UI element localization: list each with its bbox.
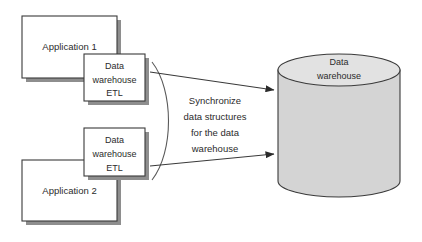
warehouse-cylinder-body[interactable]: [278, 70, 400, 197]
etl-box-2-line2: warehouse: [91, 149, 136, 159]
etl-box-2-line1: Data: [105, 135, 124, 145]
etl-group-brace-arc: [152, 62, 169, 180]
etl-box-2-node[interactable]: Data warehouse ETL: [84, 128, 149, 180]
etl-box-1-line2: warehouse: [91, 75, 136, 85]
application-2-label: Application 2: [42, 185, 96, 196]
connector-etl-1-to-warehouse: [150, 72, 274, 90]
caption-line-2: data structures: [184, 111, 247, 122]
etl-box-1-line3: ETL: [106, 88, 123, 98]
caption-line-1: Synchronize: [189, 95, 241, 106]
warehouse-cylinder-line2: warehouse: [316, 71, 361, 81]
warehouse-cylinder-node[interactable]: Data warehouse: [278, 54, 400, 197]
etl-box-2-line3: ETL: [106, 163, 123, 173]
application-1-label: Application 1: [42, 41, 96, 52]
connector-etl-2-to-warehouse: [150, 154, 274, 166]
caption-line-3: for the data: [191, 127, 240, 138]
etl-box-1-node[interactable]: Data warehouse ETL: [84, 54, 149, 105]
warehouse-cylinder-line1: Data: [329, 57, 348, 67]
diagram-svg: Application 1 Application 2 Data warehou…: [0, 0, 422, 242]
etl-box-1-line1: Data: [105, 61, 124, 71]
caption-block: Synchronize data structures for the data…: [184, 95, 247, 154]
caption-line-4: warehouse: [191, 143, 238, 154]
diagram-canvas: Application 1 Application 2 Data warehou…: [0, 0, 422, 242]
